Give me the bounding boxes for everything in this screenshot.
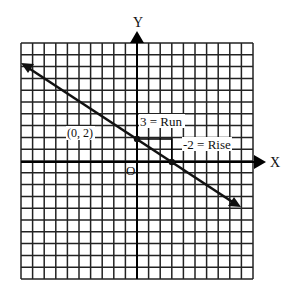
point-y-intercept xyxy=(134,136,140,142)
origin-label: O xyxy=(126,163,135,178)
coordinate-graph: X Y O (0, 2) 3 = Run -2 = Rise xyxy=(0,0,296,297)
y-axis-arrow-icon xyxy=(130,31,144,43)
graphed-line xyxy=(27,67,234,203)
rise-label: -2 = Rise xyxy=(183,137,231,152)
point-label: (0, 2) xyxy=(67,126,93,140)
x-axis-arrow-icon xyxy=(254,155,266,169)
point-x-intercept xyxy=(169,159,175,165)
y-axis-label: Y xyxy=(133,15,143,30)
run-label: 3 = Run xyxy=(140,114,183,129)
x-axis-label: X xyxy=(270,155,280,170)
